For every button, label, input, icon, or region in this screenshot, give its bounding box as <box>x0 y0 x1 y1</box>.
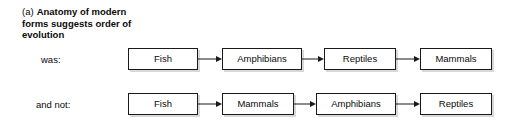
node-mammals-row2[interactable]: Mammals <box>222 93 294 115</box>
arrow-head <box>414 56 420 62</box>
arrow-head <box>414 101 420 107</box>
arrow-right-icon <box>396 56 420 63</box>
evolution-order-figure: (a) Anatomy of modern forms suggests ord… <box>0 0 506 130</box>
arrow-head <box>216 56 222 62</box>
arrow-right-icon <box>198 101 222 108</box>
flow-row-was: Fish Amphibians Reptiles Mammals <box>128 47 492 71</box>
figure-caption-marker: (a) <box>22 6 34 18</box>
arrow-right-icon <box>396 101 420 108</box>
arrow-right-icon <box>302 56 324 63</box>
row-label-and-not: and not: <box>36 99 70 111</box>
arrow-shaft <box>396 59 415 60</box>
row-label-was: was: <box>41 54 61 66</box>
node-amphibians-row1[interactable]: Amphibians <box>222 48 302 70</box>
arrow-head <box>318 56 324 62</box>
figure-caption: (a) Anatomy of modern forms suggests ord… <box>22 6 134 41</box>
flow-row-and-not: Fish Mammals Amphibians Reptiles <box>128 92 492 116</box>
arrow-shaft <box>198 104 217 105</box>
arrow-right-icon <box>198 56 222 63</box>
node-mammals-row1[interactable]: Mammals <box>420 48 492 70</box>
figure-caption-text: Anatomy of modern forms suggests order o… <box>22 6 134 41</box>
node-fish-row1[interactable]: Fish <box>128 48 198 70</box>
node-reptiles-row2[interactable]: Reptiles <box>420 93 492 115</box>
node-fish-row2[interactable]: Fish <box>128 93 198 115</box>
arrow-shaft <box>198 59 217 60</box>
node-amphibians-row2[interactable]: Amphibians <box>316 93 396 115</box>
arrow-right-icon <box>294 101 316 108</box>
arrow-shaft <box>302 59 319 60</box>
arrow-head <box>310 101 316 107</box>
arrow-shaft <box>396 104 415 105</box>
node-reptiles-row1[interactable]: Reptiles <box>324 48 396 70</box>
arrow-head <box>216 101 222 107</box>
arrow-shaft <box>294 104 311 105</box>
